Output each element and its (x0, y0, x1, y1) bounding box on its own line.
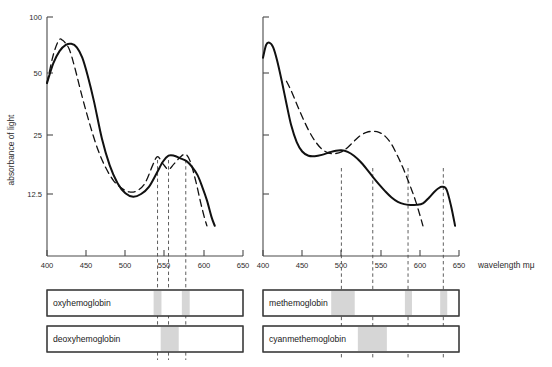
legend-box-cyanmethemoglobin: cyanmethemoglobin (263, 326, 459, 352)
right-x-label-650: 650 (453, 261, 466, 270)
absorption-band-521-558nm (358, 327, 387, 351)
legend-label-oxyhemoglobin: oxyhemoglobin (53, 298, 111, 308)
curve-methemoglobin (263, 42, 455, 225)
right-axes (263, 17, 459, 256)
y-axis-title: absorbance of light (6, 114, 16, 185)
x-axis-title: wavelength mμ (477, 260, 535, 270)
left-x-label-450: 450 (80, 261, 93, 270)
left-series-group (47, 39, 215, 226)
absorption-band-545-568nm (161, 327, 179, 351)
figure-svg: 100 50 25 12.5 400 450 500 550 600 650 a… (0, 0, 552, 367)
left-x-tick-labels: 400 450 500 550 600 650 (41, 261, 250, 270)
left-y-tick-labels: 100 50 25 12.5 (27, 13, 42, 199)
left-x-label-400: 400 (41, 261, 54, 270)
legend-label-methemoglobin: methemoglobin (269, 298, 328, 308)
absorption-band-626-635nm (440, 291, 447, 315)
curve-oxyhemoglobin (47, 39, 207, 226)
absorption-band-487-517nm (331, 291, 355, 315)
hemoglobin-absorption-figure: 100 50 25 12.5 400 450 500 550 600 650 a… (0, 0, 552, 367)
curve-deoxyhemoglobin (47, 44, 215, 226)
legend-box-methemoglobin: methemoglobin (263, 290, 459, 316)
left-x-label-650: 650 (237, 261, 250, 270)
legend-box-oxyhemoglobin: oxyhemoglobin (47, 290, 243, 316)
right-x-label-450: 450 (296, 261, 309, 270)
legend-label-cyanmethemoglobin: cyanmethemoglobin (269, 334, 346, 344)
absorption-band-572-582nm (182, 291, 190, 315)
left-x-label-600: 600 (198, 261, 211, 270)
absorption-bands (161, 327, 179, 351)
legend-label-deoxyhemoglobin: deoxyhemoglobin (53, 334, 121, 344)
right-x-tick-labels: 400 450 500 550 600 650 (257, 261, 466, 270)
left-y-label-12-5: 12.5 (27, 190, 42, 199)
legend-boxes-group: oxyhemoglobindeoxyhemoglobinmethemoglobi… (47, 290, 459, 352)
absorption-band-536-546nm (154, 291, 162, 315)
absorption-bands (358, 327, 387, 351)
absorption-band-581-590nm (405, 291, 412, 315)
right-x-label-400: 400 (257, 261, 270, 270)
legend-box-deoxyhemoglobin: deoxyhemoglobin (47, 326, 243, 352)
left-y-label-25: 25 (34, 131, 42, 140)
right-series-group (263, 42, 455, 225)
right-x-label-550: 550 (375, 261, 388, 270)
left-y-label-100: 100 (29, 13, 42, 22)
left-x-label-500: 500 (119, 261, 132, 270)
left-y-label-50: 50 (34, 69, 42, 78)
right-x-label-600: 600 (414, 261, 427, 270)
